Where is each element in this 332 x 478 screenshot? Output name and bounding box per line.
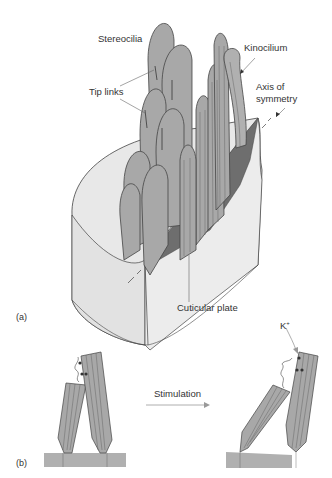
stimulation-label: Stimulation (154, 389, 201, 400)
tip-links-label: Tip links (89, 87, 124, 98)
axis-arrowhead (276, 112, 280, 117)
hair-cell-diagram (0, 0, 332, 478)
kinocilium-arrowhead (240, 69, 244, 74)
panel-b-label: (b) (16, 458, 27, 468)
hair-cell-figure: Stereocilia Kinocilium Tip links Axis of… (0, 0, 332, 478)
panel-a-label: (a) (16, 312, 27, 322)
axis-label-line2: symmetry (256, 94, 297, 105)
deflected-bundle (226, 328, 318, 468)
axis-label-line1: Axis of (256, 82, 285, 93)
cuticular-plate-label: Cuticular plate (177, 303, 238, 314)
kinocilium-label: Kinocilium (244, 43, 287, 54)
stereocilia-label: Stereocilia (98, 34, 142, 45)
resting-bundle (44, 352, 126, 467)
potassium-ion-label: K+ (280, 320, 290, 332)
stimulation-arrow (146, 402, 210, 408)
